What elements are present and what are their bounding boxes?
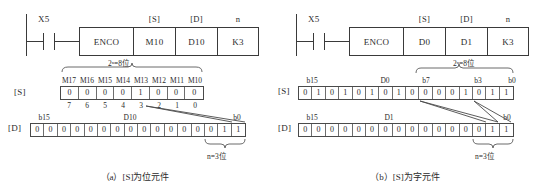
- source-bit-cell: 1: [486, 87, 499, 99]
- contact-bar-left-a: [43, 33, 44, 50]
- operand-tag-source-b: [S]: [404, 14, 445, 24]
- source-bit-cell: 1: [312, 87, 325, 99]
- source-index-label: 5: [96, 101, 114, 110]
- contact-label-b: X5: [308, 14, 319, 24]
- dest-bracket-label-a: n=3位: [207, 152, 226, 161]
- contact-label-a: X5: [38, 14, 49, 24]
- source-bit-cell: 0: [97, 87, 115, 99]
- dest-bit-cell: 0: [205, 124, 218, 136]
- dest-bit-cell: 0: [192, 124, 205, 136]
- dest-bit-cell: 0: [125, 124, 138, 136]
- source-bit-cell: 0: [353, 87, 366, 99]
- dest-bit-cell: 0: [85, 124, 98, 136]
- source-bit-cell: 0: [473, 87, 486, 99]
- dest-bit-cell: 0: [326, 124, 339, 136]
- source-bit-cell: 0: [406, 87, 419, 99]
- dest-bit-cell: 0: [31, 124, 44, 136]
- source-row-tag-b: [S]: [278, 86, 290, 97]
- source-bit-cell: 1: [339, 87, 352, 99]
- operand-value-dest-a: D10: [188, 37, 204, 47]
- source-bit-cell: 0: [299, 87, 312, 99]
- operand-source-b: [S] D0: [404, 28, 446, 55]
- source-bit-cell: 1: [500, 87, 513, 99]
- dest-bit-cell: 0: [58, 124, 71, 136]
- operand-n-b: n K3: [488, 28, 528, 55]
- dest-bit-row-a: 0000000000000011: [30, 123, 246, 137]
- source-bit-cell: 0: [326, 87, 339, 99]
- dest-name-b: D1: [378, 113, 400, 122]
- source-bit-cell: 0: [114, 87, 132, 99]
- ladder-rung-a: X5 ENCO [S] M10 [D] D10 n K3: [26, 14, 244, 56]
- source-bit-name: M10: [184, 76, 206, 85]
- rung-wire-segment: [297, 41, 313, 42]
- dest-bit-cell: 0: [339, 124, 352, 136]
- source-row-tag-a: [S]: [14, 87, 26, 98]
- source-span-label-b: 2ⁿ=8位: [453, 59, 474, 68]
- contact-bar-left-b: [313, 33, 314, 50]
- operand-value-n-b: K3: [502, 37, 514, 47]
- dest-left-label-a: b15: [34, 113, 54, 122]
- operand-tag-n-a: n: [218, 14, 258, 24]
- dest-bit-cell: 0: [473, 124, 486, 136]
- left-power-rail-b: [296, 14, 297, 56]
- instruction-block-a: ENCO [S] M10 [D] D10 n K3: [79, 27, 259, 56]
- source-bit-cell: 0: [150, 87, 168, 99]
- operand-tag-source-a: [S]: [134, 14, 175, 24]
- dest-right-label-b: b0: [498, 113, 516, 122]
- dest-bit-cell: 0: [366, 124, 379, 136]
- dest-bit-cell: 0: [44, 124, 57, 136]
- source-left-label-b: b15: [302, 76, 322, 85]
- dest-bit-cell: 0: [138, 124, 151, 136]
- source-bit-cell: 0: [168, 87, 186, 99]
- dest-row-tag-a: [D]: [8, 123, 21, 134]
- dest-name-a: D10: [116, 113, 144, 122]
- operand-dest-b: [D] D1: [446, 28, 488, 55]
- source-bit-row-b: 0101010100001011: [298, 86, 514, 100]
- instruction-name-a: ENCO: [80, 28, 134, 55]
- instruction-block-b: ENCO [S] D0 [D] D1 n K3: [349, 27, 529, 56]
- source-bit-cell: 0: [185, 87, 203, 99]
- operand-n-a: n K3: [218, 28, 258, 55]
- source-index-label: 2: [150, 101, 168, 110]
- dest-bit-cell: 0: [299, 124, 312, 136]
- dest-left-label-b: b15: [302, 113, 322, 122]
- dest-bit-cell: 0: [353, 124, 366, 136]
- source-index-label: 3: [132, 101, 150, 110]
- source-bit-cell: 0: [79, 87, 97, 99]
- dest-bit-cell: 0: [406, 124, 419, 136]
- dest-bit-cell: 0: [98, 124, 111, 136]
- source-bit-cell: 1: [366, 87, 379, 99]
- dest-bit-cell: 0: [393, 124, 406, 136]
- dest-bit-cell: 0: [71, 124, 84, 136]
- dest-bit-cell: 0: [111, 124, 124, 136]
- source-bit-cell: 1: [132, 87, 150, 99]
- dest-bit-cell: 0: [165, 124, 178, 136]
- caption-b: （b）[S]为字元件: [270, 171, 540, 183]
- dest-right-label-a: b0: [228, 113, 246, 122]
- source-bit-cell: 1: [460, 87, 473, 99]
- dest-bit-cell: 1: [232, 124, 245, 136]
- operand-source-a: [S] M10: [134, 28, 176, 55]
- operand-tag-dest-b: [D]: [446, 14, 487, 24]
- source-index-label: 6: [78, 101, 96, 110]
- rung-wire-segment: [325, 41, 349, 42]
- dest-bit-cell: 0: [446, 124, 459, 136]
- dest-bit-cell: 0: [151, 124, 164, 136]
- source-bit-cell: 0: [379, 87, 392, 99]
- dest-bit-cell: 0: [178, 124, 191, 136]
- source-index-label: 7: [60, 101, 78, 110]
- operand-value-source-b: D0: [419, 37, 431, 47]
- source-mid2-label-b: b3: [470, 76, 486, 85]
- source-index-label: 4: [114, 101, 132, 110]
- dest-bit-cell: 0: [379, 124, 392, 136]
- source-index-label: 1: [168, 101, 186, 110]
- source-bit-cell: 1: [393, 87, 406, 99]
- dest-bit-cell: 0: [460, 124, 473, 136]
- operand-value-source-a: M10: [146, 37, 164, 47]
- dest-bit-row-b: 0000000000000011: [298, 123, 514, 137]
- rung-wire-segment: [27, 41, 43, 42]
- left-power-rail-a: [26, 14, 27, 56]
- operand-tag-dest-a: [D]: [176, 14, 217, 24]
- operand-tag-n-b: n: [488, 14, 528, 24]
- dest-bit-cell: 1: [218, 124, 231, 136]
